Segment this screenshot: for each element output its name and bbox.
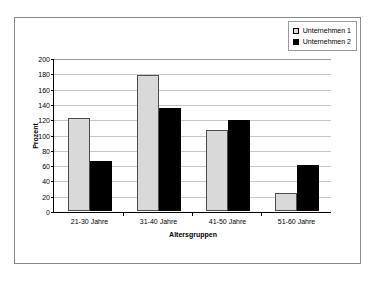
y-tick-mark bbox=[51, 197, 54, 198]
y-tick-mark bbox=[51, 90, 54, 91]
plot-wrapper: Prozent 020406080100120140160180200 21-3… bbox=[53, 59, 331, 213]
y-tick-label: 100 bbox=[38, 132, 50, 139]
y-tick-mark bbox=[51, 105, 54, 106]
x-axis-ticks bbox=[55, 212, 331, 216]
y-tick-mark bbox=[51, 151, 54, 152]
bar-series-2[interactable] bbox=[159, 108, 181, 211]
bar-group bbox=[193, 59, 262, 211]
x-tick-mark bbox=[55, 212, 124, 216]
y-tick-mark bbox=[51, 59, 54, 60]
y-tick-label: 200 bbox=[38, 56, 50, 63]
legend-item-unternehmen-1[interactable]: Unternehmen 1 bbox=[293, 25, 351, 36]
legend-label-series-1: Unternehmen 1 bbox=[303, 26, 351, 35]
x-tick-label: 41-50 Jahre bbox=[193, 218, 262, 225]
y-tick-label: 160 bbox=[38, 86, 50, 93]
y-tick-label: 20 bbox=[42, 193, 50, 200]
x-tick-label: 31-40 Jahre bbox=[124, 218, 193, 225]
y-tick-label: 60 bbox=[42, 163, 50, 170]
y-tick-label: 180 bbox=[38, 71, 50, 78]
y-tick-mark bbox=[51, 120, 54, 121]
y-tick-mark bbox=[51, 181, 54, 182]
y-tick-label: 140 bbox=[38, 101, 50, 108]
y-tick-mark bbox=[51, 74, 54, 75]
bar-group bbox=[55, 59, 124, 211]
y-tick-mark bbox=[51, 212, 54, 213]
bar-series-2[interactable] bbox=[90, 161, 112, 211]
x-axis-labels: 21-30 Jahre31-40 Jahre41-50 Jahre51-60 J… bbox=[55, 218, 331, 225]
x-tick-mark bbox=[124, 212, 193, 216]
x-tick-label: 51-60 Jahre bbox=[262, 218, 331, 225]
bar-series-2[interactable] bbox=[228, 120, 250, 211]
chart-frame: Unternehmen 1 Unternehmen 2 Prozent 0204… bbox=[14, 17, 361, 264]
y-tick-mark bbox=[51, 166, 54, 167]
legend-item-unternehmen-2[interactable]: Unternehmen 2 bbox=[293, 36, 351, 47]
y-tick-label: 40 bbox=[42, 178, 50, 185]
bar-group bbox=[262, 59, 331, 211]
y-tick-mark bbox=[51, 136, 54, 137]
x-tick-mark bbox=[262, 212, 331, 216]
x-tick-mark bbox=[193, 212, 262, 216]
y-tick-label: 0 bbox=[46, 209, 50, 216]
legend-swatch-series-2-icon bbox=[293, 39, 299, 45]
bar-series-container bbox=[55, 59, 331, 211]
y-tick-label: 120 bbox=[38, 117, 50, 124]
legend-label-series-2: Unternehmen 2 bbox=[303, 37, 351, 46]
x-tick-label: 21-30 Jahre bbox=[55, 218, 124, 225]
chart-legend: Unternehmen 1 Unternehmen 2 bbox=[288, 21, 357, 51]
bar-series-1[interactable] bbox=[137, 75, 159, 211]
y-tick-label: 80 bbox=[42, 147, 50, 154]
bar-series-1[interactable] bbox=[206, 130, 228, 211]
bar-series-1[interactable] bbox=[275, 193, 297, 211]
bar-series-2[interactable] bbox=[297, 165, 319, 211]
x-axis-title: Altersgruppen bbox=[55, 231, 331, 238]
plot-area: 020406080100120140160180200 21-30 Jahre3… bbox=[53, 59, 331, 213]
legend-swatch-series-1-icon bbox=[293, 28, 299, 34]
bar-series-1[interactable] bbox=[68, 118, 90, 211]
bar-group bbox=[124, 59, 193, 211]
